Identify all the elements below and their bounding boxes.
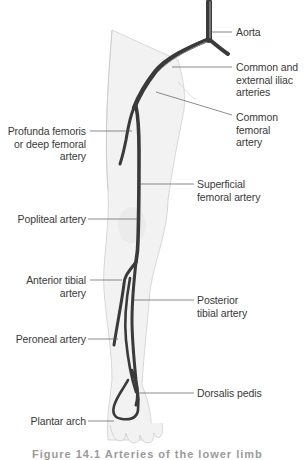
label-peroneal: Peroneal artery (16, 333, 86, 346)
label-superficial-femoral: Superficial femoral artery (197, 178, 260, 203)
right-iliac-stub (210, 40, 228, 54)
leg-outline (104, 30, 196, 443)
figure-caption: Figure 14.1 Arteries of the lower limb (32, 448, 263, 460)
label-dorsalis-pedis: Dorsalis pedis (197, 387, 262, 400)
label-common-femoral: Common femoral artery (236, 111, 278, 149)
label-plantar-arch: Plantar arch (31, 415, 86, 428)
label-common-external-iliac: Common and external iliac arteries (236, 61, 298, 99)
label-profunda-femoris: Profunda femoris or deep femoral artery (8, 125, 86, 163)
label-posterior-tibial: Posterior tibial artery (197, 294, 247, 319)
label-popliteal: Popliteal artery (18, 213, 86, 226)
label-aorta: Aorta (236, 26, 261, 39)
label-anterior-tibial: Anterior tibial artery (26, 274, 86, 299)
